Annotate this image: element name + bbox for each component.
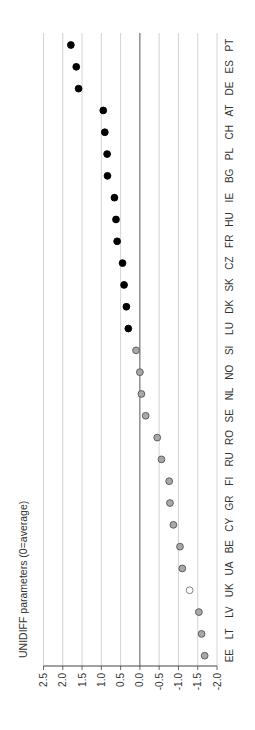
data-point-sk: [121, 282, 128, 289]
data-point-ro: [154, 434, 161, 441]
tick-label: 2.0: [57, 673, 68, 687]
category-label-ch: CH: [224, 125, 235, 139]
category-label-cy: CY: [224, 518, 235, 532]
category-label-dk: DK: [224, 299, 235, 313]
category-label-fi: FI: [224, 477, 235, 486]
category-label-nl: NL: [224, 387, 235, 400]
category-label-be: BE: [224, 540, 235, 554]
value-axis-title: UNIDIFF parameters (0=average): [17, 501, 29, 658]
data-point-ee: [201, 652, 208, 659]
category-label-cz: CZ: [224, 256, 235, 269]
value-axis-tick-labels: 2.52.01.51.00.50.0-0.5-1.0-1.5-2.0: [38, 673, 223, 691]
category-label-hu: HU: [224, 212, 235, 226]
tick-label: 0.0: [134, 673, 145, 687]
category-label-gr: GR: [224, 496, 235, 511]
data-point-ie: [111, 194, 118, 201]
data-point-cy: [170, 521, 177, 528]
data-point-gr: [167, 500, 174, 507]
category-label-ro: RO: [224, 430, 235, 445]
data-point-lu: [125, 325, 132, 332]
category-label-ee: EE: [224, 649, 235, 663]
data-point-lt: [198, 630, 205, 637]
category-label-no: NO: [224, 364, 235, 379]
tick-label: 1.5: [77, 673, 88, 687]
category-labels: EELTLVUKUABECYGRFIRUROSENLNOSILUDKSKCZFR…: [224, 39, 235, 663]
data-point-hu: [113, 216, 120, 223]
data-point-de: [75, 85, 82, 92]
tick-label: -2.0: [212, 673, 223, 691]
category-label-uk: UK: [224, 583, 235, 597]
category-label-de: DE: [224, 81, 235, 95]
category-label-si: SI: [224, 346, 235, 355]
data-point-cz: [119, 260, 126, 267]
category-label-es: ES: [224, 60, 235, 74]
data-point-es: [73, 63, 80, 70]
data-point-ru: [158, 456, 165, 463]
data-points: [67, 42, 208, 660]
tick-label: -0.5: [154, 673, 165, 691]
data-point-be: [177, 543, 184, 550]
category-label-lv: LV: [224, 606, 235, 618]
tick-label: 1.0: [96, 673, 107, 687]
data-point-ch: [101, 129, 108, 136]
data-point-ua: [179, 565, 186, 572]
gridlines: [44, 33, 218, 666]
category-label-bg: BG: [224, 168, 235, 183]
tick-label: -1.0: [173, 673, 184, 691]
category-label-ru: RU: [224, 452, 235, 466]
category-label-sk: SK: [224, 278, 235, 292]
category-label-fr: FR: [224, 235, 235, 248]
category-label-pl: PL: [224, 148, 235, 161]
category-label-ie: IE: [224, 193, 235, 203]
tick-label: 2.5: [38, 673, 49, 687]
data-point-fr: [114, 238, 121, 245]
category-label-lu: LU: [224, 322, 235, 335]
data-point-pl: [104, 151, 111, 158]
category-label-lt: LT: [224, 628, 235, 639]
chart: 2.52.01.51.00.50.0-0.5-1.0-1.5-2.0 EELTL…: [0, 0, 255, 730]
tick-label: 0.5: [115, 673, 126, 687]
data-point-fi: [166, 478, 173, 485]
value-axis-ticks: [44, 666, 218, 670]
data-point-nl: [138, 391, 145, 398]
category-label-pt: PT: [224, 39, 235, 52]
data-point-se: [142, 412, 149, 419]
category-label-se: SE: [224, 409, 235, 423]
data-point-at: [100, 107, 107, 114]
tick-label: -1.5: [192, 673, 203, 691]
data-point-dk: [123, 303, 130, 310]
category-label-at: AT: [224, 104, 235, 116]
data-point-no: [136, 369, 143, 376]
data-point-bg: [104, 172, 111, 179]
data-point-lv: [195, 609, 202, 616]
category-label-ua: UA: [224, 561, 235, 575]
data-point-uk: [186, 587, 193, 594]
data-point-si: [133, 347, 140, 354]
data-point-pt: [67, 42, 74, 49]
